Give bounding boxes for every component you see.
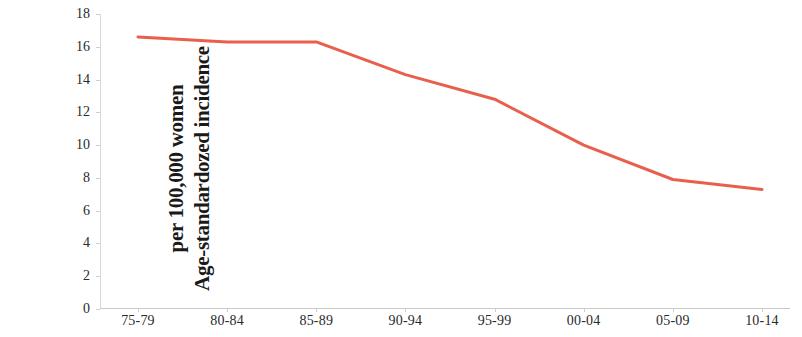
x-axis-tick-mark (138, 308, 139, 312)
y-axis-tick-label: 14 (64, 72, 90, 88)
x-axis-tick-mark (316, 308, 317, 312)
y-axis-tick-mark (96, 276, 100, 277)
series-polyline (138, 37, 762, 190)
y-axis-tick-label: 18 (64, 6, 90, 22)
x-axis-tick-label: 00-04 (549, 313, 619, 329)
x-axis-tick-mark (495, 308, 496, 312)
y-axis-tick-label: 8 (64, 170, 90, 186)
x-axis-tick-label: 80-84 (192, 313, 262, 329)
y-axis-tick-label: 4 (64, 235, 90, 251)
x-axis-tick-label: 75-79 (103, 313, 173, 329)
y-axis-tick-label: 10 (64, 137, 90, 153)
x-axis-tick-label: 85-89 (281, 313, 351, 329)
y-axis-tick-mark (96, 112, 100, 113)
y-axis-tick-mark (96, 14, 100, 15)
y-axis-tick-label: 0 (64, 301, 90, 317)
y-axis-tick-label: 6 (64, 203, 90, 219)
y-axis-tick-mark (96, 80, 100, 81)
y-axis-tick-mark (96, 309, 100, 310)
x-axis-tick-mark (762, 308, 763, 312)
y-axis-tick-mark (96, 243, 100, 244)
y-axis-title: per 100,000 women Age-standardozed incid… (0, 0, 62, 337)
y-axis-tick-labels: 024681012141618 (64, 14, 94, 309)
x-axis-tick-label: 05-09 (638, 313, 708, 329)
x-axis-tick-mark (673, 308, 674, 312)
series-line-incidence (100, 14, 790, 309)
y-axis-tick-mark (96, 145, 100, 146)
y-axis-tick-mark (96, 47, 100, 48)
plot-area (100, 14, 790, 309)
y-axis-tick-label: 16 (64, 39, 90, 55)
x-axis-tick-mark (405, 308, 406, 312)
x-axis-tick-label: 95-99 (460, 313, 530, 329)
x-axis-tick-label: 10-14 (727, 313, 797, 329)
x-axis-tick-mark (227, 308, 228, 312)
x-axis-tick-label: 90-94 (370, 313, 440, 329)
x-axis-tick-labels: 75-7980-8485-8990-9495-9900-0405-0910-14 (100, 313, 790, 335)
chart-figure: per 100,000 women Age-standardozed incid… (0, 0, 802, 337)
y-axis-tick-label: 12 (64, 104, 90, 120)
y-axis-tick-mark (96, 178, 100, 179)
x-axis-tick-mark (584, 308, 585, 312)
y-axis-tick-mark (96, 211, 100, 212)
y-axis-tick-label: 2 (64, 268, 90, 284)
